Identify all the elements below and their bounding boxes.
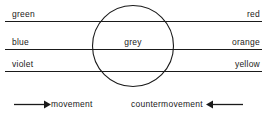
label-orange: orange bbox=[232, 37, 260, 47]
label-yellow: yellow bbox=[235, 59, 260, 69]
label-violet: violet bbox=[12, 59, 33, 69]
legend-countermovement-label: countermovement bbox=[131, 99, 203, 109]
legend-movement-label: movement bbox=[51, 99, 93, 109]
opponent-process-diagram: green red blue orange violet yellow grey… bbox=[0, 0, 268, 119]
label-grey: grey bbox=[93, 37, 173, 47]
label-green: green bbox=[12, 9, 35, 19]
arrow-left-icon bbox=[206, 101, 243, 109]
label-blue: blue bbox=[12, 37, 29, 47]
label-red: red bbox=[247, 9, 260, 19]
arrow-right-icon bbox=[14, 101, 51, 109]
